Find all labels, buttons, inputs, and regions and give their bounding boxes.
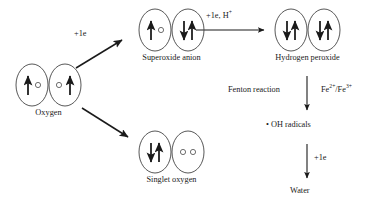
species-label-singlet-oxygen: Singlet oxygen bbox=[146, 175, 196, 185]
reaction-label-oxygen-to-superoxide: +1e bbox=[74, 29, 87, 39]
reaction-label-text: +1e, H bbox=[206, 11, 229, 20]
empty-orbital-circle bbox=[56, 82, 61, 87]
orbital-ellipse bbox=[16, 64, 48, 106]
orbital-ellipse bbox=[275, 9, 307, 51]
species-label-oxygen: Oxygen bbox=[35, 108, 61, 118]
orbital-ellipse bbox=[308, 9, 340, 51]
reaction-label-fenton: Fenton reaction bbox=[228, 85, 280, 95]
reaction-label-radicals-to-water: +1e bbox=[314, 153, 327, 163]
species-superoxide-anion: Superoxide anion bbox=[125, 51, 218, 63]
node-water: Water bbox=[290, 186, 310, 196]
reaction-label-superoxide-to-peroxide: +1e, H+ bbox=[206, 11, 232, 21]
orbital-ellipse bbox=[49, 64, 81, 106]
orbital-layer bbox=[0, 0, 386, 201]
empty-orbital-circle bbox=[158, 27, 163, 32]
species-singlet-oxygen: Singlet oxygen bbox=[126, 173, 217, 185]
empty-orbital-circle bbox=[180, 149, 185, 154]
reaction-label-fenton-catalyst: Fe2+/Fe3+ bbox=[321, 85, 352, 95]
orbital-ellipse bbox=[172, 131, 204, 173]
charge-superscript: + bbox=[229, 9, 232, 15]
species-label-hydrogen-peroxide: Hydrogen peroxide bbox=[275, 53, 339, 63]
ros-pathway-diagram: Oxygen Superoxide anion Hydrogen peroxid… bbox=[0, 0, 386, 201]
orbital-ellipse bbox=[172, 9, 204, 51]
species-label-superoxide-anion: Superoxide anion bbox=[142, 53, 200, 63]
species-hydrogen-peroxide: Hydrogen peroxide bbox=[259, 51, 356, 63]
orbital-ellipse bbox=[139, 9, 171, 51]
species-oxygen: Oxygen bbox=[8, 106, 89, 118]
charge-superscript: 3+ bbox=[346, 83, 352, 89]
empty-orbital-circle bbox=[35, 82, 40, 87]
empty-orbital-circle bbox=[190, 149, 195, 154]
node-oh-radicals: • OH radicals bbox=[266, 120, 311, 130]
catalyst-separator: /Fe bbox=[335, 85, 346, 94]
orbital-ellipse bbox=[139, 131, 171, 173]
